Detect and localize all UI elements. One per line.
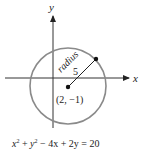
center-point xyxy=(66,85,70,89)
circle-diagram: x y radius 5 (2, −1) x2 + y2 − 4x + 2y =… xyxy=(0,0,143,153)
circle-point xyxy=(94,57,98,61)
radius-value: 5 xyxy=(73,66,78,77)
y-axis-label: y xyxy=(48,1,54,13)
x-axis-label: x xyxy=(132,72,138,84)
equation: x2 + y2 − 4x + 2y = 20 xyxy=(11,138,99,149)
center-label: (2, −1) xyxy=(56,94,83,106)
